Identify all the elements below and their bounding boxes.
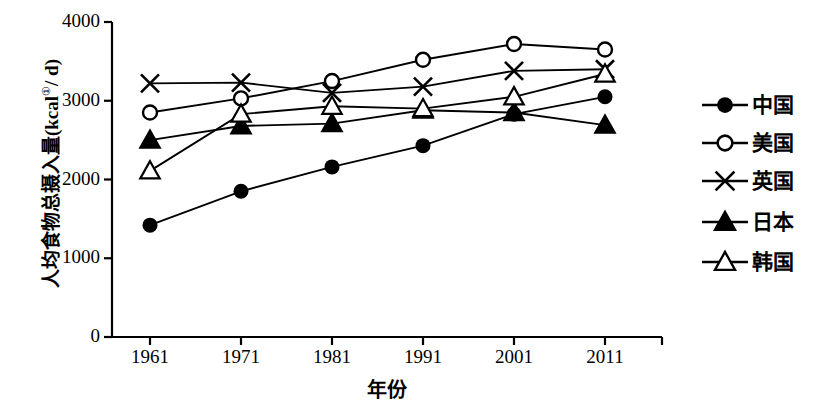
data-point-filled-circle xyxy=(717,97,733,113)
data-point-open-circle xyxy=(598,43,612,57)
legend-item-美国[interactable]: 美国 xyxy=(700,126,794,160)
legend-marker-open-circle-icon xyxy=(700,128,750,158)
legend-label: 中国 xyxy=(752,95,794,116)
series-line xyxy=(150,69,605,93)
legend-label: 美国 xyxy=(752,133,794,154)
data-point-filled-circle xyxy=(416,138,431,153)
data-point-open-circle xyxy=(325,74,339,88)
data-point-filled-circle xyxy=(325,159,340,174)
legend-marker-filled-triangle-icon xyxy=(700,207,750,237)
legend-item-英国[interactable]: 英国 xyxy=(700,164,794,198)
series-line xyxy=(150,110,605,140)
legend-item-韩国[interactable]: 韩国 xyxy=(700,245,794,279)
legend-item-中国[interactable]: 中国 xyxy=(700,88,794,122)
data-point-filled-circle xyxy=(143,218,158,233)
data-point-open-circle xyxy=(718,136,733,151)
data-point-open-circle xyxy=(143,106,157,120)
data-point-open-circle xyxy=(416,53,430,67)
legend-marker-filled-circle-icon xyxy=(700,90,750,120)
legend-marker-cross-x-icon xyxy=(700,166,750,196)
legend-marker-open-triangle-icon xyxy=(700,247,750,277)
data-point-open-triangle xyxy=(140,161,159,178)
data-point-filled-circle xyxy=(598,89,613,104)
legend-label: 韩国 xyxy=(752,252,794,273)
data-point-open-triangle xyxy=(595,64,614,81)
series-0 xyxy=(143,89,613,232)
legend-label: 日本 xyxy=(752,212,794,233)
data-point-open-circle xyxy=(507,37,521,51)
series-2 xyxy=(141,60,614,102)
series-line xyxy=(150,44,605,113)
data-point-filled-circle xyxy=(234,184,249,199)
series-4 xyxy=(140,64,614,178)
legend-item-日本[interactable]: 日本 xyxy=(700,205,794,239)
legend-label: 英国 xyxy=(752,171,794,192)
